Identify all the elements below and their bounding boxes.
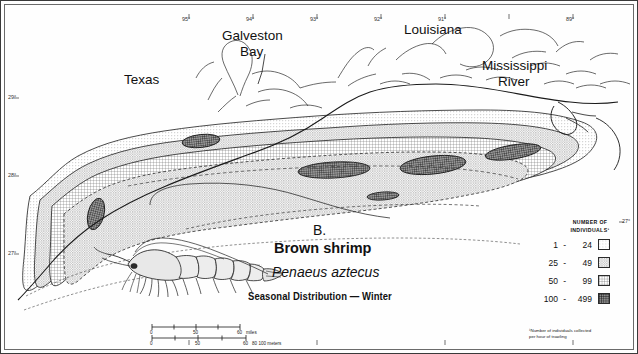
scale-miles-start: 0	[150, 330, 153, 335]
legend-header: NUMBER OF INDIVIDUALS¹	[560, 219, 620, 235]
scientific-name: Penaeus aztecus	[272, 264, 379, 280]
scale-km-mid: 50	[195, 341, 200, 346]
lon-tick-89: 89°	[566, 16, 574, 22]
legend-header-line2: INDIVIDUALS¹	[560, 227, 620, 235]
label-texas: Texas	[124, 72, 159, 87]
lat-tick-27: 27°	[8, 250, 16, 256]
legend-swatch-4	[598, 293, 610, 304]
legend-dash-3: -	[560, 276, 566, 286]
legend-swatch-3	[598, 275, 610, 286]
legend-footnote-line2: per hour of trawling	[529, 334, 591, 340]
label-galveston-bay-line1: Galveston	[222, 28, 283, 43]
legend-low-4: 100	[524, 294, 558, 304]
label-mississippi-river-line2: River	[498, 74, 530, 89]
label-louisiana: Louisiana	[404, 22, 462, 37]
lat-tick-28: 28°	[8, 172, 16, 178]
scale-miles-end: 60	[237, 330, 242, 335]
legend-dash-1: -	[560, 240, 566, 250]
scale-miles-mid: 50	[193, 330, 198, 335]
lon-tick-92: 92°	[374, 16, 382, 22]
legend-footnote: ¹Number of individuals collected per hou…	[529, 328, 591, 341]
panel-label: B.	[313, 222, 326, 238]
legend-low-2: 25	[530, 258, 558, 268]
legend-dash-2: -	[560, 258, 566, 268]
legend-low-3: 50	[530, 276, 558, 286]
legend-low-1: 1	[536, 240, 558, 250]
figure-panel: Texas Galveston Bay Louisiana Mississipp…	[0, 0, 638, 354]
legend-swatch-1	[598, 239, 610, 250]
scale-miles-unit: miles	[246, 330, 257, 335]
legend-swatch-2	[598, 257, 610, 268]
lat-tick-right: 27°	[622, 218, 630, 224]
lon-tick-91: 91°	[438, 16, 446, 22]
legend-dash-4: -	[560, 294, 566, 304]
scale-km-start: 0	[150, 341, 153, 346]
subtitle: Seasonal Distribution — Winter	[248, 290, 392, 302]
legend-high-3: 99	[568, 276, 592, 286]
common-name: Brown shrimp	[274, 240, 371, 256]
legend-high-4: 499	[568, 294, 592, 304]
legend-high-2: 49	[568, 258, 592, 268]
legend-header-line1: NUMBER OF	[560, 219, 620, 227]
label-galveston-bay-line2: Bay	[240, 44, 263, 59]
lon-tick-94: 94°	[246, 16, 254, 22]
scale-km-end: 60	[243, 341, 248, 346]
lon-tick-93: 93°	[310, 16, 318, 22]
scale-km-unit: 80 100 meters	[252, 341, 281, 346]
lon-tick-95: 95°	[182, 16, 190, 22]
lat-tick-29: 29°	[8, 94, 16, 100]
label-mississippi-river-line1: Mississippi	[482, 58, 547, 73]
legend-high-1: 24	[568, 240, 592, 250]
